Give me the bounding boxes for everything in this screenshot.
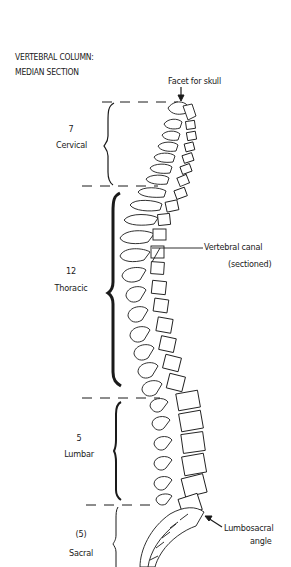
lumbar-label: Lumbar <box>62 449 96 460</box>
lumbar-count: 5 <box>62 433 96 444</box>
sacral-label: Sacral <box>66 548 96 559</box>
sacral-count: (5) <box>66 529 96 540</box>
region-thoracic: 12 Thoracic <box>50 266 92 294</box>
vertebral-canal-sublabel: (sectioned) <box>228 259 271 270</box>
brace-sacral <box>113 507 118 567</box>
lumbosacral-label: Lumbosacral <box>224 523 273 534</box>
region-lumbar: 5 Lumbar <box>62 433 96 460</box>
cervical-label: Cervical <box>56 140 86 151</box>
brace-lumbar <box>114 402 121 500</box>
thoracic-label: Thoracic <box>50 283 92 294</box>
region-cervical: 7 Cervical <box>56 124 86 151</box>
lumbosacral-arrow <box>205 516 222 527</box>
vertebral-column <box>120 102 207 567</box>
facet-for-skull-label: Facet for skull <box>168 76 221 87</box>
brace-thoracic <box>108 193 121 386</box>
thoracic-count: 12 <box>50 266 92 277</box>
region-sacral: (5) Sacral <box>66 529 96 559</box>
lumbosacral-sublabel: angle <box>250 536 271 547</box>
vertebral-canal-label: Vertebral canal <box>204 242 262 253</box>
spine-illustration <box>0 0 291 567</box>
cervical-count: 7 <box>56 124 86 135</box>
facet-arrow <box>178 87 184 101</box>
brace-cervical <box>104 103 114 185</box>
